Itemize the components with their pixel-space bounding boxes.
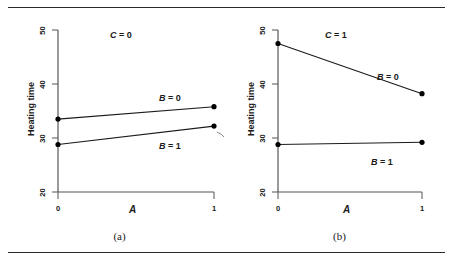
figure-root: Heating time 50 40 30 20 0 1 A C = 0 B =… (0, 0, 453, 268)
series-label-b1-b: B = 1 (371, 157, 393, 167)
x-axis-title-b: A (343, 204, 350, 215)
x-axis-title-a: A (129, 204, 136, 215)
series-label-b1-b-var: B (371, 157, 378, 167)
panel-caption-b: (b) (232, 230, 447, 242)
scan-artifact-mark-a (217, 132, 224, 137)
series-label-b0-b-var: B (377, 72, 384, 82)
panel-title-val-a: = 0 (119, 30, 132, 40)
panel-title-var-b: C (325, 30, 332, 40)
data-point-b1-b-x1 (419, 140, 424, 145)
panel-b: Heating time 50 40 30 20 0 1 A C = 1 B =… (232, 12, 447, 242)
series-label-b1-a-val: = 1 (168, 141, 181, 151)
data-point-b0-b-x0 (275, 41, 280, 46)
series-label-b0-b-val: = 0 (386, 72, 399, 82)
panel-title-var-a: C (110, 30, 117, 40)
series-line-b0-b (278, 44, 422, 94)
y-tick-label-50-b: 50 (258, 23, 267, 39)
panel-title-val-b: = 1 (334, 30, 347, 40)
series-line-b0-a (58, 107, 214, 119)
data-point-b0-b-x1 (419, 91, 424, 96)
series-label-b1-a-var: B (159, 141, 166, 151)
x-tick-label-1-b: 1 (415, 204, 429, 213)
series-label-b0-b: B = 0 (377, 72, 399, 82)
x-tick-label-1-a: 1 (207, 204, 221, 213)
series-label-b1-b-val: = 1 (380, 157, 393, 167)
y-tick-label-40-b: 40 (258, 77, 267, 93)
y-axis-title-a: Heating time (26, 64, 36, 154)
data-point-b1-a-x1 (211, 124, 216, 129)
series-label-b1-a: B = 1 (159, 141, 181, 151)
y-tick-label-20-b: 20 (258, 185, 267, 201)
panel-title-a: C = 0 (110, 30, 132, 40)
y-tick-label-20-a: 20 (38, 185, 47, 201)
x-tick-label-0-a: 0 (51, 204, 65, 213)
panel-title-b: C = 1 (325, 30, 347, 40)
data-point-b0-a-x1 (211, 104, 216, 109)
y-tick-label-40-a: 40 (38, 77, 47, 93)
y-tick-label-30-a: 30 (38, 131, 47, 147)
series-label-b0-a: B = 0 (159, 93, 181, 103)
data-point-b0-a-x0 (55, 117, 60, 122)
x-tick-label-0-b: 0 (271, 204, 285, 213)
series-line-b1-b (278, 142, 422, 144)
y-tick-label-50-a: 50 (38, 23, 47, 39)
series-line-b1-a (58, 126, 214, 144)
data-point-b1-a-x0 (55, 142, 60, 147)
series-label-b0-a-var: B (159, 93, 166, 103)
y-tick-label-30-b: 30 (258, 131, 267, 147)
series-label-b0-a-val: = 0 (168, 93, 181, 103)
panel-a: Heating time 50 40 30 20 0 1 A C = 0 B =… (12, 12, 227, 242)
figure-bottom-rule (8, 252, 445, 253)
figure-top-rule (8, 7, 445, 8)
y-axis-title-b: Heating time (246, 64, 256, 154)
panel-caption-a: (a) (12, 230, 227, 242)
data-point-b1-b-x0 (275, 142, 280, 147)
